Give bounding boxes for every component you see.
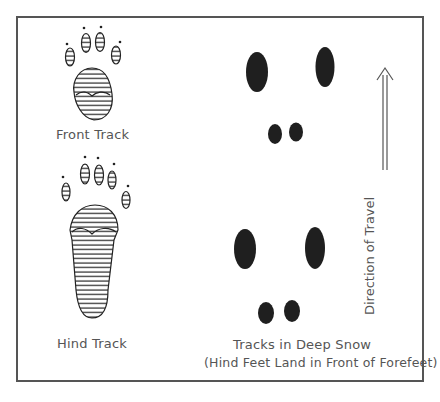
double-arrow-up-icon	[377, 68, 393, 170]
front-paw-print-icon	[66, 26, 122, 120]
hind-paw-print-icon	[62, 156, 130, 318]
deep-snow-title: Tracks in Deep Snow	[233, 337, 371, 352]
deep-snow-tracks-lower	[234, 227, 325, 324]
direction-of-travel-label: Direction of Travel	[362, 197, 377, 315]
hind-track-label: Hind Track	[57, 336, 127, 351]
deep-snow-subtitle: (Hind Feet Land in Front of Forefeet)	[204, 355, 438, 370]
front-track-label: Front Track	[56, 127, 129, 142]
deep-snow-tracks-upper	[246, 47, 335, 144]
